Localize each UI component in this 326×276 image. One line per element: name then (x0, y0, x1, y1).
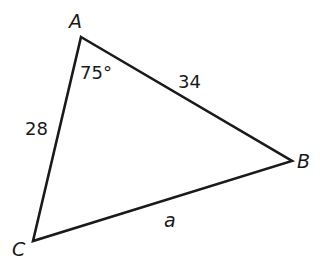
side-ac-label: 28 (25, 118, 48, 139)
angle-a-label: 75° (80, 62, 112, 83)
side-ab-label: 34 (178, 71, 201, 92)
triangle-diagram: A B C 75° 28 34 a (0, 0, 326, 276)
triangle-abc (33, 37, 292, 241)
vertex-c-label: C (12, 238, 26, 260)
side-bc-label: a (164, 209, 176, 231)
vertex-a-label: A (67, 10, 82, 32)
vertex-b-label: B (297, 150, 310, 172)
